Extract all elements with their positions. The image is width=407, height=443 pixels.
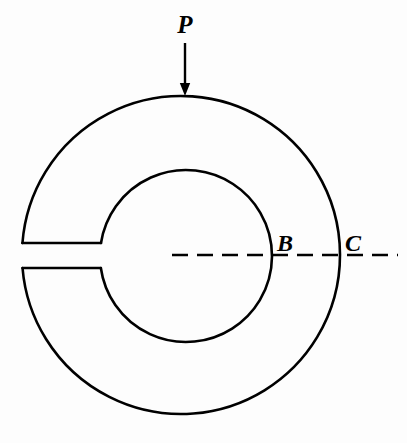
load-arrow-group <box>180 43 190 96</box>
load-arrow-head-icon <box>180 83 190 96</box>
point-label-b: B <box>276 230 293 256</box>
figure-canvas: P B C <box>0 0 407 443</box>
point-label-c: C <box>345 230 362 256</box>
split-ring-diagram: P B C <box>0 0 407 443</box>
load-label-p: P <box>176 11 193 38</box>
